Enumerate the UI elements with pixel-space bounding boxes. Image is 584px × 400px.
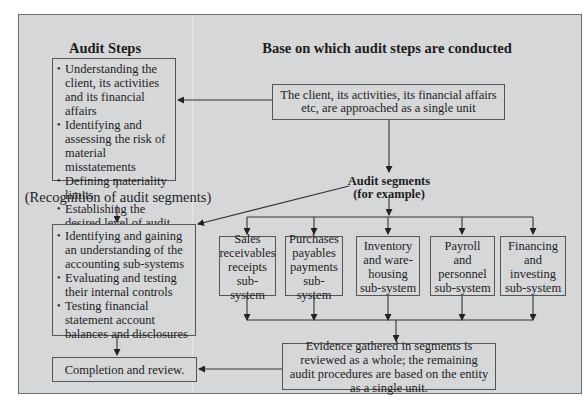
connector-lines bbox=[0, 0, 584, 400]
